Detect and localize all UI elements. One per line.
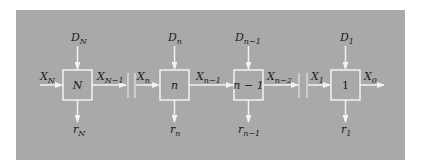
decision-label: Dn	[167, 31, 182, 46]
stage-diagram: N n n − 1 1 DN Dn Dn−1 D1 rN rn rn−1 r1 …	[0, 0, 422, 168]
state-label: Xn	[136, 70, 150, 85]
stage-label: n	[171, 79, 178, 92]
stage-label: N	[72, 79, 83, 92]
state-label: X0	[363, 70, 377, 85]
stage-label: 1	[342, 79, 349, 92]
return-label: rn−1	[238, 123, 260, 138]
state-label: Xn−2	[266, 70, 292, 85]
state-label: Xn−1	[195, 70, 221, 85]
return-label: rN	[73, 123, 86, 138]
state-label: X1	[310, 70, 324, 85]
decision-label: D1	[339, 31, 354, 46]
decision-label: Dn−1	[234, 31, 261, 46]
return-label: rn	[170, 123, 180, 138]
decision-label: DN	[70, 31, 88, 46]
stage-label: n − 1	[233, 79, 263, 92]
state-label: XN−1	[96, 70, 124, 85]
state-label: XN	[39, 70, 56, 85]
return-label: r1	[341, 123, 351, 138]
